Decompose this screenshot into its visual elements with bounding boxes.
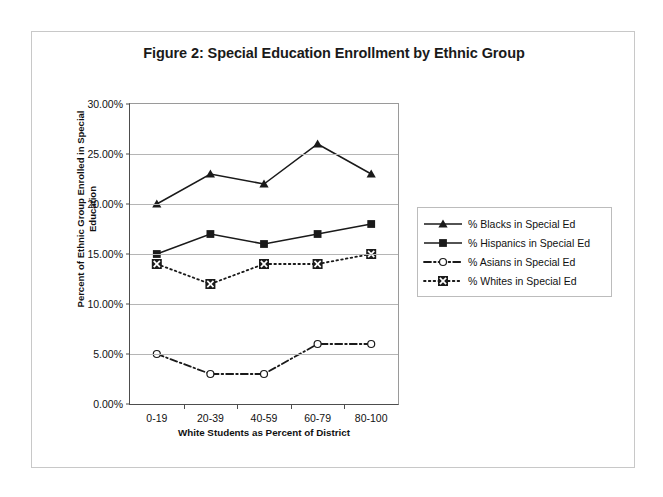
data-point-x-square	[152, 259, 162, 269]
legend-key-circle-open	[422, 255, 464, 269]
legend-item: % Asians in Special Ed	[422, 252, 606, 271]
y-tick-mark	[126, 354, 130, 355]
y-tick-mark	[126, 154, 130, 155]
gridline	[130, 354, 398, 355]
x-axis-title: White Students as Percent of District	[129, 427, 399, 438]
y-tick-label: 0.00%	[93, 398, 123, 410]
data-point-triangle	[367, 169, 376, 177]
screenshot-root: Figure 2: Special Education Enrollment b…	[0, 0, 663, 497]
data-point-circle-open	[261, 371, 268, 378]
series-x-square	[152, 249, 376, 289]
legend-label: % Asians in Special Ed	[468, 256, 575, 268]
legend-key-x-square	[422, 274, 464, 288]
data-point-circle-open	[368, 341, 375, 348]
y-tick-mark	[126, 104, 130, 105]
x-tick-mark	[344, 404, 345, 409]
y-tick-mark	[126, 404, 130, 405]
x-tick-label: 60-79	[304, 412, 331, 424]
legend-item: % Blacks in Special Ed	[422, 214, 606, 233]
data-point-triangle	[313, 139, 322, 147]
data-point-x-square	[313, 259, 323, 269]
x-tick-label: 20-39	[197, 412, 224, 424]
y-tick-label: 15.00%	[87, 248, 123, 260]
y-tick-mark	[126, 254, 130, 255]
data-point-circle-open	[207, 371, 214, 378]
gridline	[130, 304, 398, 305]
data-point-circle-open	[440, 258, 447, 265]
data-point-square	[207, 230, 215, 238]
data-point-x-square	[259, 259, 269, 269]
x-tick-mark	[237, 404, 238, 409]
legend-item: % Whites in Special Ed	[422, 271, 606, 290]
chart-frame: Figure 2: Special Education Enrollment b…	[31, 31, 635, 468]
chart-legend: % Blacks in Special Ed% Hispanics in Spe…	[417, 207, 612, 297]
plot-area: 0.00%5.00%10.00%15.00%20.00%25.00%30.00%…	[129, 103, 399, 405]
y-tick-label: 30.00%	[87, 98, 123, 110]
gridline	[130, 254, 398, 255]
data-point-circle-open	[314, 341, 321, 348]
data-point-triangle	[206, 169, 215, 177]
legend-label: % Hispanics in Special Ed	[468, 237, 590, 249]
gridline	[130, 204, 398, 205]
series-circle-open	[153, 341, 374, 378]
x-tick-mark	[291, 404, 292, 409]
y-tick-label: 10.00%	[87, 298, 123, 310]
legend-label: % Blacks in Special Ed	[468, 218, 575, 230]
legend-key-square	[422, 236, 464, 250]
data-point-square	[439, 239, 447, 247]
legend-key-triangle	[422, 217, 464, 231]
data-point-square	[260, 240, 268, 248]
y-tick-label: 20.00%	[87, 198, 123, 210]
data-point-square	[314, 230, 322, 238]
x-tick-label: 40-59	[251, 412, 278, 424]
x-tick-mark	[184, 404, 185, 409]
y-tick-label: 5.00%	[93, 348, 123, 360]
x-tick-label: 0-19	[146, 412, 167, 424]
y-axis-title-line1: Percent of Ethnic Group Enrolled in Spec…	[75, 111, 86, 308]
legend-item: % Hispanics in Special Ed	[422, 233, 606, 252]
y-tick-label: 25.00%	[87, 148, 123, 160]
series-triangle	[152, 139, 376, 207]
y-tick-mark	[126, 204, 130, 205]
gridline	[130, 154, 398, 155]
series-square	[153, 220, 375, 258]
chart-title: Figure 2: Special Education Enrollment b…	[32, 45, 636, 61]
legend-label: % Whites in Special Ed	[468, 275, 577, 287]
data-point-x-square	[205, 279, 215, 289]
y-tick-mark	[126, 304, 130, 305]
x-tick-label: 80-100	[355, 412, 388, 424]
data-point-square	[367, 220, 375, 228]
data-point-x-square	[438, 276, 448, 286]
